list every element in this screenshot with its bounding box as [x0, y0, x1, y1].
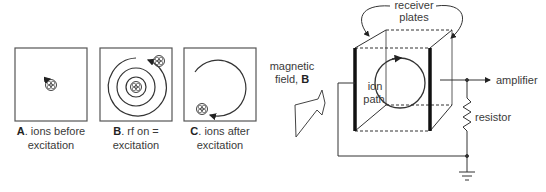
panel-c-caption-line2: excitation	[197, 139, 243, 151]
ion-cloud-icon	[131, 82, 142, 93]
ion-path-label: ion	[368, 80, 383, 92]
icr-diagram: A. ions before excitation B. rf on = exc…	[0, 0, 546, 192]
magnetic-field-label-line2: field, B	[275, 73, 309, 85]
ion-cloud-icon	[154, 56, 165, 67]
panel-c-caption: C. ions after	[190, 125, 250, 137]
magnetic-field: magnetic field, B	[270, 60, 325, 137]
resistor-label: resistor	[475, 111, 511, 123]
receiver-plates-label: receiver	[394, 0, 433, 11]
circuit	[338, 79, 490, 181]
receiver-plates-label-line2: plates	[399, 11, 429, 23]
panel-c: C. ions after excitation	[184, 48, 256, 151]
panel-a-caption-line2: excitation	[28, 139, 74, 151]
panel-a-box	[15, 48, 87, 121]
curved-arrow-icon	[436, 5, 463, 38]
panel-b: B. rf on = excitation	[100, 48, 172, 151]
ion-path-label-line2: path	[363, 93, 384, 105]
panel-b-caption-line2: excitation	[113, 139, 159, 151]
panel-b-caption: B. rf on =	[113, 125, 159, 137]
resistor-icon	[463, 98, 471, 131]
magnetic-field-label: magnetic	[270, 60, 315, 72]
amplifier-label: amplifier	[496, 74, 538, 86]
field-arrow-icon	[295, 90, 325, 137]
ion-cloud-icon	[197, 104, 208, 115]
panel-a: A. ions before excitation	[15, 48, 87, 151]
panel-a-caption: A. ions before	[17, 125, 86, 137]
